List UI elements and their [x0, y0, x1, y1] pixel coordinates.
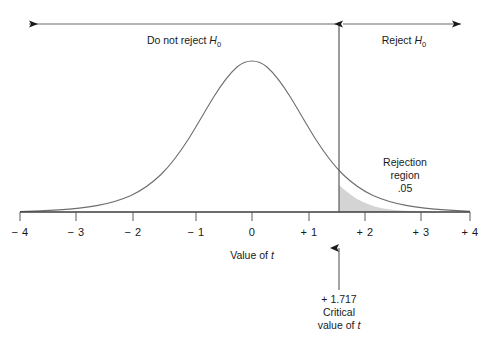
tick-label-zero: 0	[249, 226, 256, 238]
do-not-reject-label: Do not reject H0	[147, 34, 221, 49]
critical-value-line3: value of t	[318, 319, 362, 331]
tick-label-plus-4: + 4	[461, 226, 478, 238]
tick-label-plus-1: + 1	[300, 226, 317, 238]
critical-value-line3-prefix: value of	[318, 319, 358, 331]
x-axis-tick-labels: − 4 − 3 − 2 − 1 0 + 1 + 2 + 3 + 4	[11, 226, 478, 238]
reject-label-subscript: 0	[422, 40, 426, 49]
rejection-region-note: Rejection region .05	[383, 156, 427, 194]
critical-value-line1: + 1.717	[321, 293, 356, 305]
t-distribution-chart: − 4 − 3 − 2 − 1 0 + 1 + 2 + 3 + 4 Value …	[0, 0, 493, 337]
tick-label-plus-2: + 2	[356, 226, 373, 238]
critical-value-line2: Critical	[323, 306, 355, 318]
critical-value-line3-symbol: t	[357, 319, 361, 331]
x-axis-ticks	[20, 212, 470, 221]
rejection-region-line1: Rejection	[383, 156, 427, 168]
rejection-region-line3: .05	[398, 182, 413, 194]
figure-root: − 4 − 3 − 2 − 1 0 + 1 + 2 + 3 + 4 Value …	[0, 0, 493, 337]
critical-value-note: + 1.717 Critical value of t	[318, 293, 362, 331]
reject-label: Reject H0	[382, 34, 426, 49]
x-axis-title-symbol: t	[271, 249, 275, 261]
tick-label-minus-4: − 4	[11, 226, 28, 238]
reject-label-text: Reject	[382, 34, 415, 46]
do-not-reject-label-subscript: 0	[217, 40, 221, 49]
rejection-region-line2: region	[390, 169, 419, 181]
tick-label-minus-3: − 3	[67, 226, 84, 238]
tick-label-minus-1: − 1	[187, 226, 204, 238]
x-axis-title-prefix: Value of	[230, 249, 271, 261]
do-not-reject-label-text: Do not reject	[147, 34, 209, 46]
tick-label-plus-3: + 3	[412, 226, 429, 238]
tick-label-minus-2: − 2	[124, 226, 141, 238]
x-axis-title: Value of t	[230, 249, 275, 261]
